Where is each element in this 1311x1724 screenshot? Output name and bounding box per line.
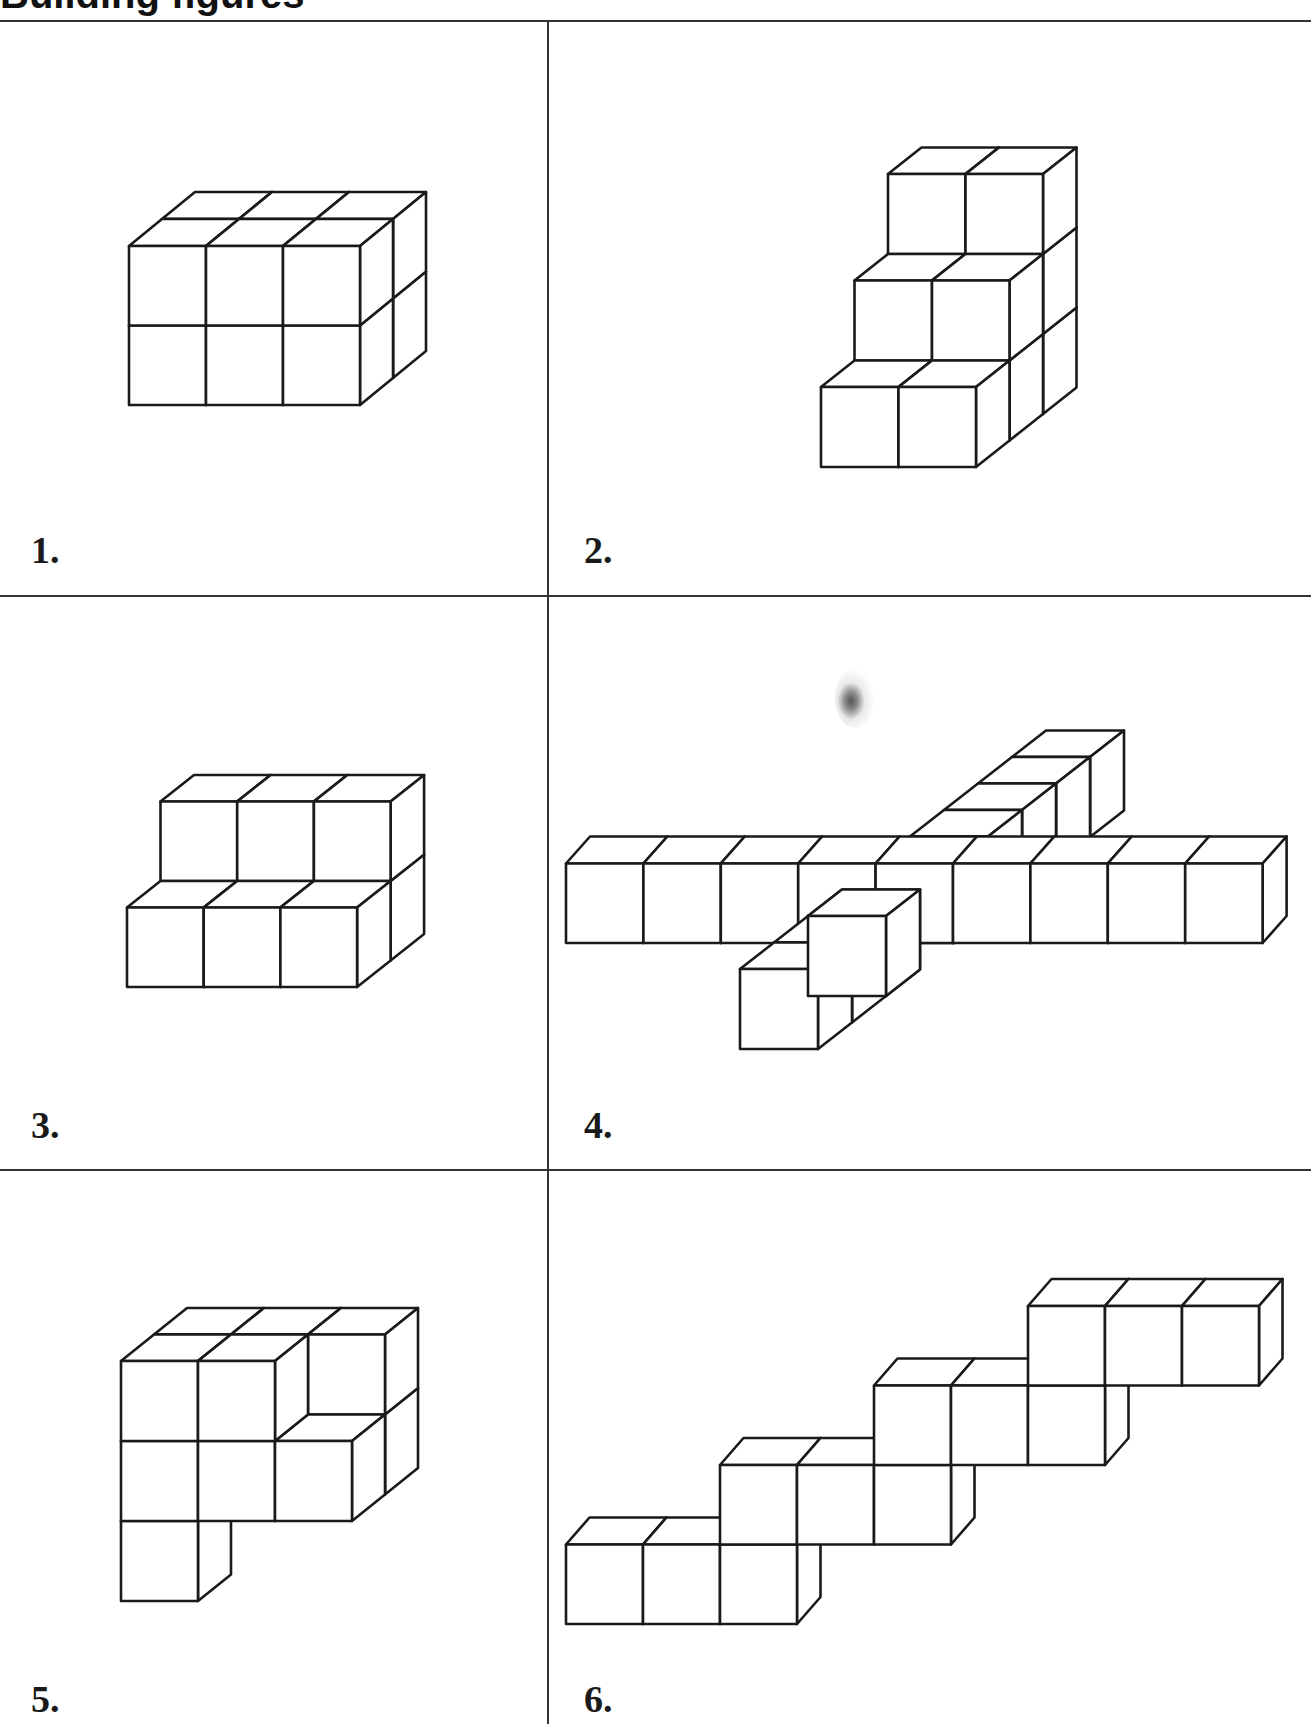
- panel-label-2: 2.: [584, 531, 613, 569]
- cube-figure-3: [127, 775, 424, 987]
- cube-figure-1: [129, 192, 426, 405]
- cube-figure-2: [821, 148, 1077, 468]
- panel-label-4: 4.: [584, 1106, 613, 1144]
- cube-figures-canvas: [0, 0, 1311, 1724]
- cube-figure-6: [566, 1279, 1283, 1624]
- panel-label-5: 5.: [31, 1680, 60, 1718]
- panel-label-6: 6.: [584, 1680, 613, 1718]
- cube-figure-4: [566, 731, 1287, 1050]
- panel-label-3: 3.: [31, 1106, 60, 1144]
- cube-figure-5: [121, 1308, 418, 1601]
- panel-label-1: 1.: [31, 531, 60, 569]
